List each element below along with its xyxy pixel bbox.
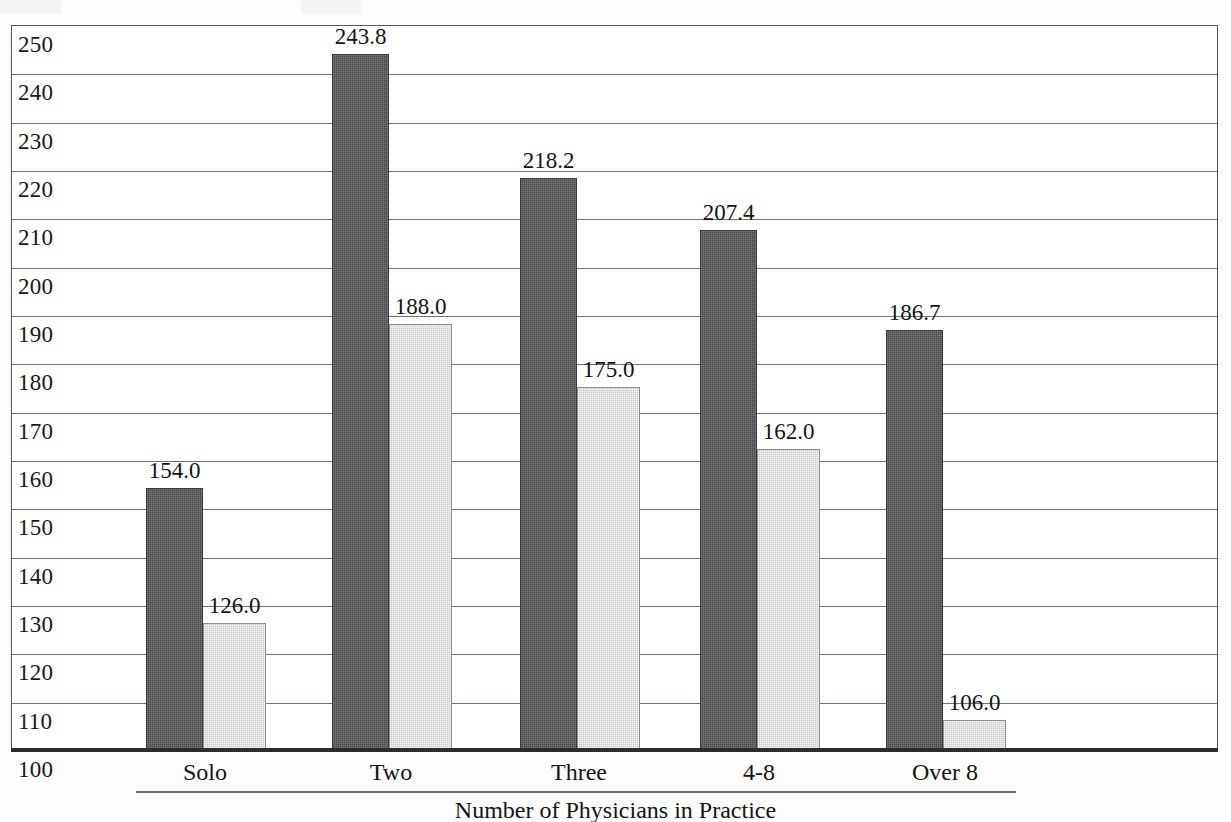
y-tick-label: 150	[18, 516, 53, 539]
y-tick-label: 140	[18, 565, 53, 588]
bar-value-label: 126.0	[195, 594, 275, 617]
y-tick-label: 230	[18, 130, 53, 153]
bar-value-label: 106.0	[935, 691, 1015, 714]
bar-value-label: 154.0	[135, 459, 215, 482]
y-tick-label: 200	[18, 275, 53, 298]
bar-value-label: 243.8	[321, 25, 401, 48]
bar-three-series-1[interactable]	[520, 178, 577, 749]
category-label-over-8: Over 8	[865, 760, 1025, 784]
y-tick-label: 240	[18, 81, 53, 104]
bar-value-label: 175.0	[569, 358, 649, 381]
x-axis-title: Number of Physicians in Practice	[0, 798, 1231, 822]
category-label-solo: Solo	[125, 760, 285, 784]
y-tick-label: 100	[18, 758, 53, 781]
bar-value-label: 186.7	[875, 301, 955, 324]
category-label-two: Two	[311, 760, 471, 784]
bar-value-label: 188.0	[381, 295, 461, 318]
y-tick-label: 120	[18, 661, 53, 684]
y-tick-label: 170	[18, 420, 53, 443]
x-axis-rule	[136, 791, 1016, 793]
bar-chart-figure: 154.0126.0243.8188.0218.2175.0207.4162.0…	[0, 0, 1231, 822]
y-tick-label: 130	[18, 613, 53, 636]
bar-value-label: 162.0	[749, 420, 829, 443]
bar-value-label: 207.4	[689, 201, 769, 224]
bar-two-series-1[interactable]	[332, 54, 389, 749]
bar-over-8-series-1[interactable]	[886, 330, 943, 749]
bar-4-8-series-1[interactable]	[700, 230, 757, 749]
y-tick-label: 110	[18, 710, 52, 733]
y-tick-label: 220	[18, 178, 53, 201]
bar-solo-series-2[interactable]	[203, 623, 266, 749]
y-tick-label: 160	[18, 468, 53, 491]
y-tick-label: 180	[18, 371, 53, 394]
scan-artifact	[0, 0, 1231, 14]
bar-solo-series-1[interactable]	[146, 488, 203, 749]
y-tick-label: 250	[18, 33, 53, 56]
y-tick-label: 210	[18, 226, 53, 249]
bars-layer: 154.0126.0243.8188.0218.2175.0207.4162.0…	[12, 26, 1217, 749]
x-axis-baseline	[11, 748, 1218, 752]
bar-4-8-series-2[interactable]	[757, 449, 820, 749]
plot-area: 154.0126.0243.8188.0218.2175.0207.4162.0…	[11, 25, 1218, 750]
category-label-4-8: 4-8	[679, 760, 839, 784]
category-label-three: Three	[499, 760, 659, 784]
y-tick-label: 190	[18, 323, 53, 346]
bar-two-series-2[interactable]	[389, 324, 452, 749]
bar-over-8-series-2[interactable]	[943, 720, 1006, 749]
bar-three-series-2[interactable]	[577, 387, 640, 750]
bar-value-label: 218.2	[509, 149, 589, 172]
